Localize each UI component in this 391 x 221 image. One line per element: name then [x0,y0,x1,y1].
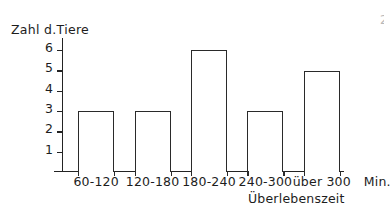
bar [247,111,283,172]
bar-series [62,38,344,172]
x-axis-category-labels: 60-120120-180180-240240-300über 300Min. [50,176,386,192]
y-tick-label: 5 [45,62,53,75]
x-category-label: 240-300 [239,176,293,189]
bar [135,111,171,172]
y-axis-title: Zahl d.Tiere [11,22,89,37]
x-category-label: über 300 [293,176,351,189]
y-tick-label: 1 [45,144,53,157]
plot-area: 123456 [62,38,344,172]
x-axis-title: Überlebenszeit [248,193,345,206]
y-tick-label: 6 [45,42,53,55]
x-category-label: 180-240 [182,176,236,189]
bar [78,111,114,172]
x-category-label: 120-180 [126,176,180,189]
x-axis-unit-label: Min. [364,176,391,189]
y-tick-label: 4 [45,83,53,96]
x-category-label: 60-120 [73,176,118,189]
bar [191,50,227,172]
bar [304,71,340,173]
y-tick-label: 2 [45,123,53,136]
scan-artifact: 2 [380,14,384,28]
y-tick-label: 3 [45,103,53,116]
